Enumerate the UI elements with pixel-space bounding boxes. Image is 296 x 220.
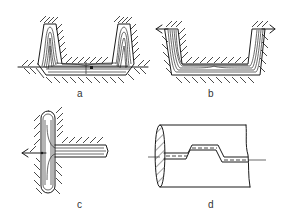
figure-c: [22, 107, 108, 194]
figure-label-b: b: [208, 88, 214, 99]
figure-label-c: c: [77, 199, 82, 210]
figure-label-a: a: [77, 88, 83, 99]
figure-b: [156, 21, 275, 83]
figure-a: [18, 16, 150, 83]
forging-diagram: [0, 0, 296, 220]
figure-label-d: d: [208, 199, 214, 210]
figure-d: [148, 125, 266, 187]
